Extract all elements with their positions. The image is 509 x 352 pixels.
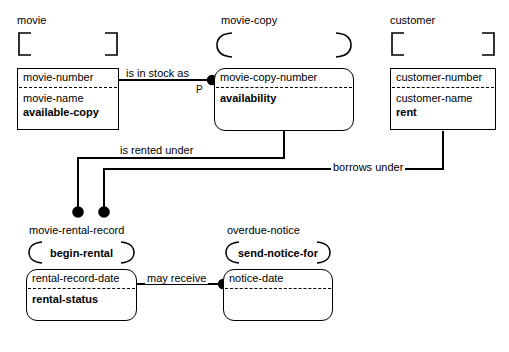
attribute-available-copy: available-copy	[23, 105, 113, 119]
attribute-customer-name: customer-name	[396, 91, 490, 105]
entity-box-customer[interactable]: customer-number customer-name rent	[390, 68, 496, 130]
attribute-rent: rent	[396, 105, 490, 119]
relationship-label-may-receive: may receive	[145, 272, 208, 284]
entity-name-customer: customer	[390, 14, 435, 26]
attribute-availability: availability	[220, 91, 348, 105]
attribute-rental-status: rental-status	[32, 292, 131, 306]
er-diagram-canvas: movie movie-number movie-name available-…	[0, 0, 509, 352]
entity-box-overdue-notice[interactable]: notice-date	[223, 269, 333, 321]
relationship-marker-p: P	[196, 84, 203, 95]
attribute-list-overdue-notice	[224, 289, 332, 295]
identifier-movie-copy-number: movie-copy-number	[215, 69, 353, 87]
attribute-list-movie-copy: availability	[215, 88, 353, 108]
decoration-arc-movie-rental-record: begin-rental	[26, 240, 137, 265]
entity-name-movie: movie	[17, 14, 46, 26]
entity-box-movie-rental-record[interactable]: rental-record-date rental-status	[26, 269, 137, 321]
decoration-bracket-customer	[390, 31, 496, 57]
decoration-arc-overdue-notice: send-notice-for	[223, 240, 333, 265]
endpoint-dot-borrows-under	[98, 206, 110, 218]
decoration-label-begin-rental: begin-rental	[26, 247, 137, 259]
entity-name-overdue-notice: overdue-notice	[227, 224, 300, 236]
entity-box-movie-copy[interactable]: movie-copy-number availability	[214, 68, 354, 131]
attribute-list-movie: movie-name available-copy	[18, 88, 118, 122]
relationship-label-is-in-stock-as: is in stock as	[124, 67, 191, 79]
identifier-customer-number: customer-number	[391, 69, 495, 87]
relationship-label-borrows-under: borrows under	[331, 161, 405, 173]
decoration-label-send-notice-for: send-notice-for	[223, 247, 333, 259]
attribute-list-movie-rental-record: rental-status	[27, 289, 136, 309]
identifier-rental-record-date: rental-record-date	[27, 270, 136, 288]
relationship-label-is-rented-under: is rented under	[118, 144, 195, 156]
entity-name-movie-copy: movie-copy	[221, 14, 277, 26]
attribute-movie-name: movie-name	[23, 91, 113, 105]
entity-box-movie[interactable]: movie-number movie-name available-copy	[17, 68, 119, 130]
decoration-bracket-movie	[17, 31, 119, 57]
entity-name-movie-rental-record: movie-rental-record	[29, 224, 124, 236]
identifier-notice-date: notice-date	[224, 270, 332, 288]
decoration-arc-movie-copy	[214, 31, 354, 59]
attribute-list-customer: customer-name rent	[391, 88, 495, 122]
identifier-movie-number: movie-number	[18, 69, 118, 87]
endpoint-dot-rented-under	[72, 206, 84, 218]
